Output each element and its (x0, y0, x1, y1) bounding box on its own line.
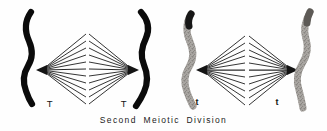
figure-caption: Second Meiotic Division (0, 115, 327, 125)
spindle-fan-3 (202, 36, 245, 105)
cell-1-group (24, 12, 86, 104)
kinetochore-3 (196, 65, 207, 75)
cell-3-group (185, 14, 245, 106)
spindle-fan-4 (249, 36, 292, 105)
chromosome-4-dark-tip (307, 12, 310, 23)
kinetochore-1 (36, 65, 47, 75)
chromosome-3-dark-tip (188, 14, 191, 26)
chromosome-4-outline (297, 12, 310, 108)
cell-4-group (249, 12, 310, 108)
cell-4-label: t (276, 97, 279, 107)
kinetochore-2 (128, 65, 139, 75)
cell-3-label: t (196, 97, 199, 107)
chromosome-2 (136, 12, 148, 106)
spindle-fan-1 (42, 34, 86, 104)
spindle-fan-2 (89, 34, 133, 104)
cell-2-label: T (121, 98, 127, 109)
diagram-canvas (0, 0, 327, 131)
chromosome-1 (24, 12, 32, 104)
meiosis-figure: T T t t Second Meiotic Division (0, 0, 327, 131)
cell-1-label: T (47, 98, 53, 109)
cell-2-group (89, 12, 148, 106)
